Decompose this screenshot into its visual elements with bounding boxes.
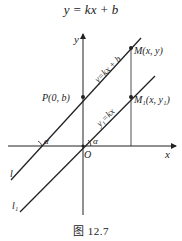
point-o [82,145,85,148]
point-p [81,95,85,99]
line-graph-diagram: y x O P(0, b) M(x, y) M₁(x, y₁) y=kx + b… [0,0,182,241]
point-m1-label: M₁(x, y₁) [133,94,170,106]
angle-upper-label: α [44,136,49,146]
angle-lower-label: α [93,136,98,146]
point-p-label: P(0, b) [41,92,70,104]
y-axis-label: y [73,33,79,45]
figure-caption: 图 12.7 [0,222,182,238]
angle-arc-upper [38,141,42,146]
line-upper-equation: y=kx + b [92,54,124,86]
line-l1-label: l₁ [12,200,18,211]
point-m-label: M(x, y) [133,45,164,57]
x-axis-label: x [164,148,170,160]
line-l-label: l [10,168,13,179]
point-m [129,46,133,50]
origin-label: O [84,149,91,160]
point-m1 [129,95,133,99]
